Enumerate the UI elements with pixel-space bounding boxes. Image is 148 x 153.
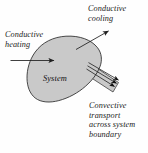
label-conductive-cooling: Conductive cooling: [88, 4, 126, 23]
label-conductive-heating: Conductive heating: [5, 30, 43, 49]
label-convective-transport: Convective transport across system bound…: [89, 101, 135, 139]
label-system: System: [43, 74, 67, 84]
figure-canvas: Conductive cooling Conductive heating Sy…: [0, 0, 148, 153]
